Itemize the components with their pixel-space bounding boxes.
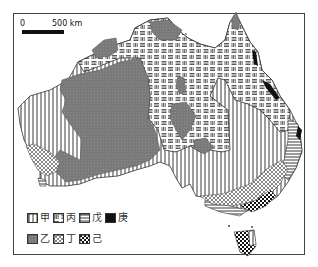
scale-bar-graphic bbox=[22, 30, 64, 34]
legend-item-wu: 戊 bbox=[79, 213, 102, 223]
legend-label-bing: 丙 bbox=[66, 213, 76, 223]
legend-row-1: 甲 丙 戊 庚 bbox=[27, 211, 131, 225]
legend-item-geng: 庚 bbox=[105, 213, 128, 223]
light-checker-swatch-icon bbox=[53, 234, 64, 244]
legend-label-jia: 甲 bbox=[40, 213, 50, 223]
legend-label-geng: 庚 bbox=[118, 213, 128, 223]
legend-row-2: 乙 丁 己 bbox=[27, 232, 131, 246]
legend-item-jia: 甲 bbox=[27, 213, 50, 223]
legend-label-ding: 丁 bbox=[66, 234, 76, 244]
legend-item-yi: 乙 bbox=[27, 234, 50, 244]
basketweave-swatch-icon bbox=[53, 213, 64, 223]
bold-checker-swatch-icon bbox=[79, 234, 90, 244]
legend-item-ji: 己 bbox=[79, 234, 102, 244]
legend-item-ding: 丁 bbox=[53, 234, 76, 244]
legend-label-wu: 戊 bbox=[92, 213, 102, 223]
scale-distance-label: 500 km bbox=[52, 19, 82, 28]
solid-black-swatch-icon bbox=[105, 213, 116, 223]
horizontal-lines-swatch-icon bbox=[79, 213, 90, 223]
legend-label-ji: 己 bbox=[92, 234, 102, 244]
region-yi-capeyork bbox=[232, 12, 240, 30]
gray-stipple-swatch-icon bbox=[27, 234, 38, 244]
scale-zero-label: 0 bbox=[20, 19, 25, 28]
legend-label-yi: 乙 bbox=[40, 234, 50, 244]
vertical-lines-swatch-icon bbox=[27, 213, 38, 223]
map-legend: 甲 丙 戊 庚 乙 丁 己 bbox=[27, 211, 131, 253]
legend-item-bing: 丙 bbox=[53, 213, 76, 223]
